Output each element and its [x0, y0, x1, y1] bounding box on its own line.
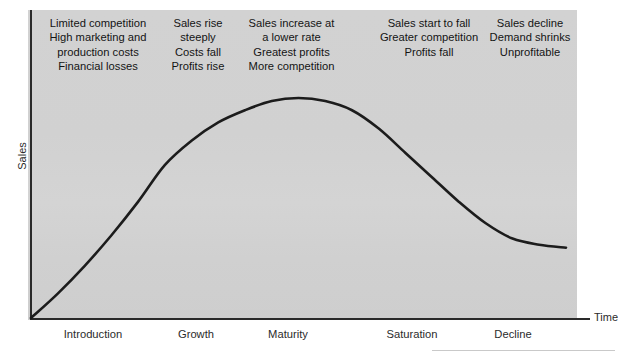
annotation-maturity: Sales increase at a lower rate Greatest … — [235, 16, 348, 74]
x-axis-line — [30, 318, 590, 320]
annotation-introduction-line-4: Financial losses — [31, 59, 165, 73]
annotation-decline: Sales decline Demand shrinks Unprofitabl… — [476, 16, 584, 59]
annotation-introduction-line-2: High marketing and — [31, 30, 165, 44]
stage-label-decline: Decline — [472, 328, 554, 340]
annotation-decline-line-2: Demand shrinks — [476, 30, 584, 44]
y-axis-title: Sales — [16, 126, 28, 186]
annotation-introduction-line-3: production costs — [31, 45, 165, 59]
annotation-maturity-line-4: More competition — [235, 59, 348, 73]
annotation-maturity-line-1: Sales increase at — [235, 16, 348, 30]
annotation-growth-line-2: steeply — [160, 30, 236, 44]
annotation-introduction-line-1: Limited competition — [31, 16, 165, 30]
x-axis-title: Time — [594, 311, 618, 323]
annotation-growth-line-4: Profits rise — [160, 59, 236, 73]
stage-label-growth: Growth — [152, 328, 240, 340]
annotation-growth-line-1: Sales rise — [160, 16, 236, 30]
annotation-maturity-line-2: a lower rate — [235, 30, 348, 44]
stage-label-introduction: Introduction — [38, 328, 148, 340]
stage-label-saturation: Saturation — [363, 328, 461, 340]
stage-label-maturity: Maturity — [243, 328, 333, 340]
annotation-growth-line-3: Costs fall — [160, 45, 236, 59]
footer-rule — [432, 350, 615, 351]
annotation-decline-line-1: Sales decline — [476, 16, 584, 30]
annotation-introduction: Limited competition High marketing and p… — [31, 16, 165, 74]
annotation-maturity-line-3: Greatest profits — [235, 45, 348, 59]
annotation-growth: Sales rise steeply Costs fall Profits ri… — [160, 16, 236, 74]
annotation-decline-line-3: Unprofitable — [476, 45, 584, 59]
